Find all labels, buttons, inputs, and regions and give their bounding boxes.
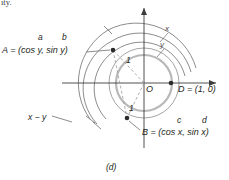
y-axis-arrowhead — [141, 8, 147, 15]
radius-label-top: 1 — [126, 56, 131, 65]
cutoff-body-text: ity. — [1, 0, 12, 7]
annotation-b: b — [62, 33, 67, 42]
point-A — [111, 48, 116, 53]
arc-label-y: y — [160, 41, 164, 49]
leader-line-x-minus-y — [52, 116, 72, 122]
origin-label: O — [146, 85, 153, 94]
arc-endcap-top — [104, 26, 112, 34]
arc-x-outer-right — [108, 23, 196, 68]
radius-label-bottom: 1 — [129, 104, 134, 113]
point-label-B: B = (cos x, sin x) — [142, 128, 209, 137]
arc-endcap-bottom-2 — [93, 122, 101, 129]
arc-y — [94, 50, 116, 119]
arc-label-x-minus-y: x − y — [28, 113, 46, 122]
point-D — [169, 81, 174, 86]
annotation-d: d — [202, 116, 207, 125]
point-label-D: D = (1, 0) — [178, 85, 216, 94]
leader-line-B — [129, 121, 140, 130]
arc-x-right — [112, 33, 191, 72]
arc-label-x: x — [165, 25, 169, 33]
point-label-A: A = (cos y, sin y) — [2, 46, 68, 55]
figure-caption: (d) — [106, 163, 116, 172]
annotation-a: a — [38, 33, 43, 42]
point-B — [125, 116, 130, 121]
figure-container: ity. a b A = (cos y, sin y) B = (cos x, … — [0, 0, 229, 180]
arc-x — [83, 41, 112, 124]
leader-line-arc-y — [157, 49, 164, 57]
annotation-c: c — [177, 116, 181, 125]
arc-x-minus-y — [78, 30, 108, 119]
